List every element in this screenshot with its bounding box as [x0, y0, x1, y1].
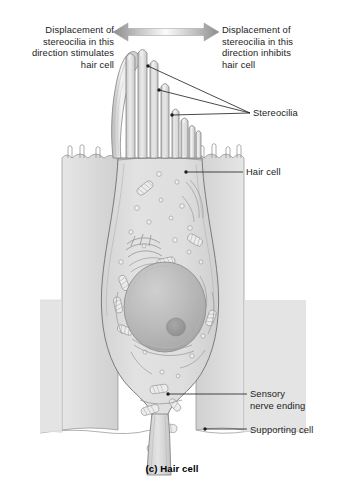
kinocilium [112, 52, 140, 158]
nucleus [124, 262, 206, 352]
supporting-cell-label: Supporting cell [250, 424, 313, 436]
displacement-direction-arrow [113, 23, 219, 41]
hair-cell-illustration [0, 0, 344, 493]
right-displacement-label: Displacement of stereocilia in this dire… [222, 24, 338, 70]
stereocilia-label: Stereocilia [253, 107, 298, 119]
sensory-nerve-ending-label: Sensory nerve ending [250, 388, 342, 411]
hair-cell-figure: Displacement of stereocilia in this dire… [0, 0, 344, 493]
left-displacement-label: Displacement of stereocilia in this dire… [6, 24, 114, 70]
figure-caption: (c) Hair cell [0, 463, 344, 474]
nucleolus [167, 318, 186, 336]
hair-cell-label: Hair cell [246, 166, 281, 178]
